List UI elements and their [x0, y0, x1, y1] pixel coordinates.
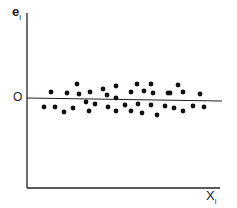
data-point — [71, 106, 76, 111]
data-point — [87, 109, 92, 114]
data-point — [65, 91, 70, 96]
zero-label: O — [13, 90, 22, 104]
data-point — [202, 105, 207, 110]
data-point — [42, 105, 47, 110]
data-point — [106, 105, 111, 110]
data-point — [149, 82, 154, 87]
data-point — [105, 93, 110, 98]
data-point — [129, 109, 134, 114]
data-point — [101, 87, 106, 92]
data-point — [93, 102, 98, 107]
zero-reference-line — [27, 98, 222, 101]
data-point — [123, 103, 128, 108]
data-point — [168, 91, 173, 96]
data-point — [53, 105, 58, 110]
data-point — [114, 96, 119, 101]
data-point — [163, 104, 168, 109]
data-point — [77, 92, 82, 97]
data-point — [142, 89, 147, 94]
data-point — [155, 113, 160, 118]
data-point — [191, 104, 196, 109]
data-point — [149, 103, 154, 108]
data-point — [181, 109, 186, 114]
data-point — [49, 90, 54, 95]
data-point — [176, 83, 181, 88]
data-point — [88, 90, 93, 95]
data-point — [62, 110, 67, 115]
data-point — [151, 91, 156, 96]
data-point — [198, 92, 203, 97]
data-point — [136, 102, 141, 107]
data-point — [114, 109, 119, 114]
data-point — [84, 100, 89, 105]
data-point — [181, 90, 186, 95]
data-point — [140, 111, 145, 116]
x-axis-label: Xi — [206, 188, 216, 206]
data-point — [172, 106, 177, 111]
data-point — [129, 90, 134, 95]
data-point — [114, 84, 119, 89]
residual-plot — [0, 0, 237, 208]
y-axis-label: ei — [12, 4, 21, 22]
data-point — [135, 82, 140, 87]
data-point — [75, 82, 80, 87]
